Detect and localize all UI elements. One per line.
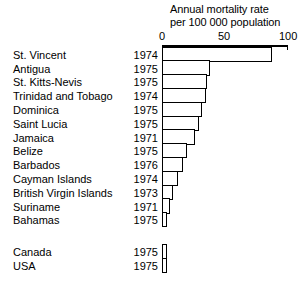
row-year-dominica: 1975 <box>100 104 158 116</box>
row-label-suriname: Suriname <box>13 201 60 213</box>
row-year-st-vincent: 1974 <box>100 49 158 61</box>
x-axis-tick-labels: 0 50 100 <box>0 30 305 44</box>
row-label-british-virgin-islands: British Virgin Islands <box>13 187 112 199</box>
row-year-st-kitts-nevis: 1975 <box>100 76 158 88</box>
row-label-barbados: Barbados <box>13 159 60 171</box>
row-year-suriname: 1971 <box>100 201 158 213</box>
row-year-saint-lucia: 1975 <box>100 118 158 130</box>
bar-usa <box>162 258 167 273</box>
mortality-rate-bar-chart: Annual mortality rateper 100 000 populat… <box>0 0 305 292</box>
row-label-antigua: Antigua <box>13 63 50 75</box>
x-tick-label-50: 50 <box>218 30 230 42</box>
row-year-trinidad-and-tobago: 1974 <box>100 90 158 102</box>
bar-bahamas <box>162 212 167 227</box>
chart-title-line-1: Annual mortality rate <box>170 3 269 15</box>
row-year-usa: 1975 <box>100 260 158 272</box>
row-year-bahamas: 1975 <box>100 214 158 226</box>
x-axis-tick-100 <box>287 45 289 50</box>
row-label-trinidad-and-tobago: Trinidad and Tobago <box>13 90 113 102</box>
row-label-jamaica: Jamaica <box>13 132 54 144</box>
row-year-belize: 1975 <box>100 145 158 157</box>
x-tick-label-100: 100 <box>279 30 297 42</box>
row-label-st-kitts-nevis: St. Kitts-Nevis <box>13 76 82 88</box>
row-label-usa: USA <box>13 260 36 272</box>
row-label-cayman-islands: Cayman Islands <box>13 173 92 185</box>
row-label-canada: Canada <box>13 246 52 258</box>
row-label-dominica: Dominica <box>13 104 59 116</box>
row-label-st-vincent: St. Vincent <box>13 49 66 61</box>
row-year-barbados: 1976 <box>100 159 158 171</box>
chart-title-line-2: per 100 000 population <box>170 16 280 28</box>
row-label-bahamas: Bahamas <box>13 214 59 226</box>
chart-title: Annual mortality rateper 100 000 populat… <box>170 3 305 28</box>
row-year-cayman-islands: 1974 <box>100 173 158 185</box>
row-year-british-virgin-islands: 1973 <box>100 187 158 199</box>
x-tick-label-0: 0 <box>159 30 165 42</box>
row-label-saint-lucia: Saint Lucia <box>13 118 67 130</box>
row-year-antigua: 1975 <box>100 63 158 75</box>
row-year-canada: 1975 <box>100 246 158 258</box>
row-label-belize: Belize <box>13 145 43 157</box>
row-year-jamaica: 1971 <box>100 132 158 144</box>
